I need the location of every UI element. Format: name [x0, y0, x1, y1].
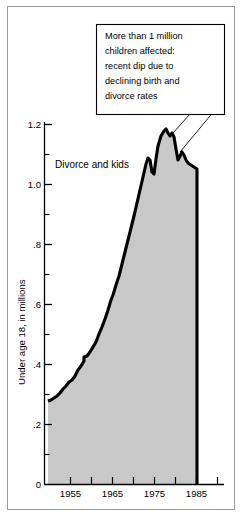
y-tick-label-1: .4 [33, 359, 42, 370]
annotation-line-2: recent dip due to [105, 61, 173, 71]
annotation-callout: More than 1 million children affected: r… [97, 25, 225, 115]
x-tick-label-1955: 1955 [60, 488, 81, 499]
area-series-divorce-and-kids [48, 129, 197, 484]
area-fill [48, 129, 197, 484]
x-tick-label-1965: 1965 [102, 488, 123, 499]
y-tick-label-0: .2 [33, 419, 41, 430]
y-axis-title: Under age 18, in millions [16, 279, 27, 385]
y-tick-label-2: .6 [33, 299, 41, 310]
y-axis: 1.2 1.0 .8 .6 .4 .2 0 Under age 18, in m… [16, 119, 52, 490]
annotation-leader-line-left-down [173, 114, 190, 133]
x-tick-label-1985: 1985 [186, 488, 207, 499]
y-tick-label-4: 1.0 [28, 179, 41, 190]
annotation-line-4: divorce rates [105, 91, 158, 101]
y-tick-label-3: .8 [33, 239, 41, 250]
series-label-divorce-and-kids: Divorce and kids [55, 159, 129, 170]
divorce-and-kids-area-chart: 1.2 1.0 .8 .6 .4 .2 0 Under age 18, in m… [0, 0, 242, 518]
chart-figure: 1.2 1.0 .8 .6 .4 .2 0 Under age 18, in m… [0, 0, 242, 518]
x-axis: 1955 1965 1975 1985 [44, 477, 224, 499]
annotation-line-3: declining birth and [105, 76, 180, 86]
y-tick-label-5: 1.2 [28, 119, 41, 130]
annotation-line-0: More than 1 million [105, 31, 183, 41]
x-tick-label-1975: 1975 [144, 488, 165, 499]
y-origin-label: 0 [36, 479, 41, 490]
annotation-line-1: children affected: [105, 46, 175, 56]
